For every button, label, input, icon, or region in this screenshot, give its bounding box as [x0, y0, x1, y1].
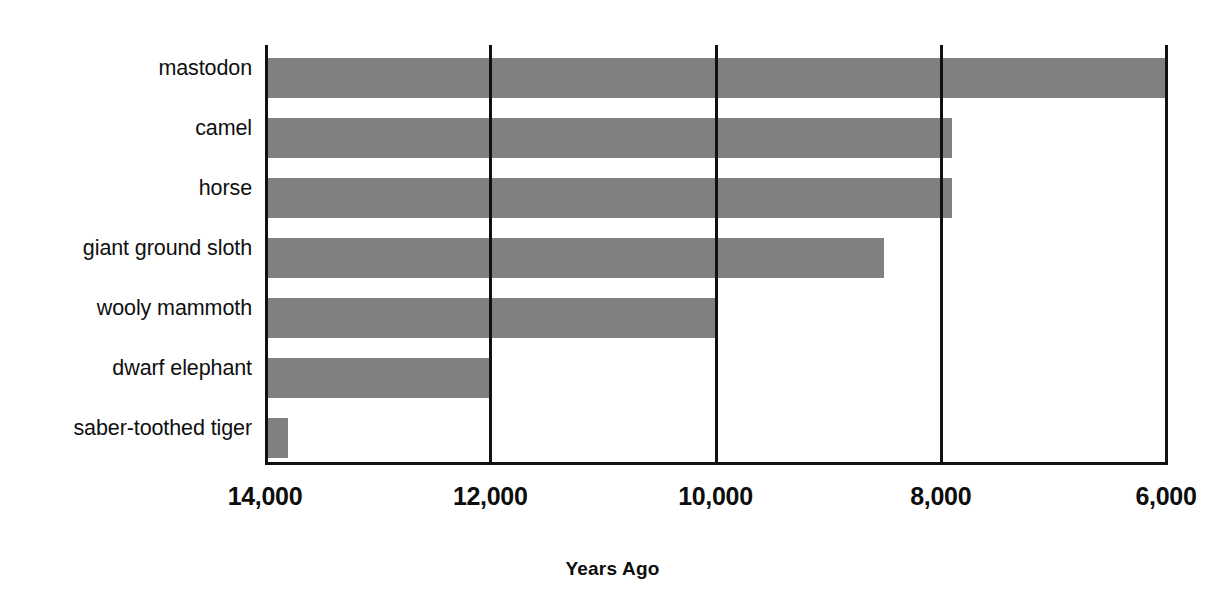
x-axis-line	[265, 462, 1166, 465]
y-axis-category-labels: mastodon camel horse giant ground sloth …	[0, 45, 252, 465]
y-axis-label-wooly-mammoth: wooly mammoth	[0, 298, 252, 320]
gridline-10000	[715, 45, 718, 465]
y-axis-label-horse: horse	[0, 178, 252, 200]
bar-horse	[265, 178, 952, 218]
y-axis-label-camel: camel	[0, 118, 252, 140]
y-axis-label-saber-toothed-tiger: saber-toothed tiger	[0, 418, 252, 440]
gridline-8000	[940, 45, 943, 465]
bar-camel	[265, 118, 952, 158]
y-axis-label-dwarf-elephant: dwarf elephant	[0, 358, 252, 380]
bar-chart-figure: mastodon camel horse giant ground sloth …	[0, 0, 1225, 605]
bar-giant-ground-sloth	[265, 238, 884, 278]
gridline-12000	[489, 45, 492, 465]
y-axis-label-mastodon: mastodon	[0, 58, 252, 80]
gridline-6000	[1165, 45, 1168, 465]
x-axis-tick-10000: 10,000	[626, 484, 806, 509]
y-axis-label-giant-ground-sloth: giant ground sloth	[0, 238, 252, 260]
y-axis-line	[265, 45, 268, 465]
bar-saber-toothed-tiger	[265, 418, 288, 458]
x-axis-tick-12000: 12,000	[400, 484, 580, 509]
x-axis-title: Years Ago	[0, 558, 1225, 580]
x-axis-tick-14000: 14,000	[175, 484, 355, 509]
x-axis-tick-6000: 6,000	[1076, 484, 1225, 509]
x-axis-tick-labels: 14,00012,00010,0008,0006,000	[0, 484, 1225, 520]
plot-area	[265, 45, 1166, 465]
bar-dwarf-elephant	[265, 358, 490, 398]
x-axis-tick-8000: 8,000	[851, 484, 1031, 509]
